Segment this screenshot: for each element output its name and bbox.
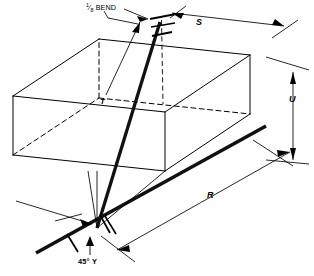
run-pipe xyxy=(36,126,266,253)
dimension-label-u: U xyxy=(289,95,296,104)
angle-leader-arrow xyxy=(16,201,92,227)
bend-vertical-projection xyxy=(162,20,164,104)
offset-pipe xyxy=(97,22,160,228)
y-branch-arrow xyxy=(86,236,94,255)
bend-fraction: 1⁄8 BEND xyxy=(86,3,116,12)
y-branch-label: 45° Y xyxy=(78,258,97,265)
bend-fitting-marks xyxy=(150,14,176,36)
dimension-line-s xyxy=(170,6,298,38)
diagram-canvas: 1⁄8 BEND S U R T 45° Y xyxy=(0,0,314,276)
box-bottom-front-edges xyxy=(13,114,250,171)
dimension-line-u xyxy=(266,57,309,164)
travel-leader xyxy=(106,22,140,95)
bend-label: 1⁄8 BEND xyxy=(86,3,116,14)
box-top-face xyxy=(13,39,250,112)
pipe-assembly xyxy=(36,22,266,253)
reference-box xyxy=(13,39,250,171)
dimension-label-r: R xyxy=(207,191,214,200)
isometric-figure xyxy=(0,0,314,276)
dimension-label-t: T xyxy=(100,98,105,106)
dimension-label-s: S xyxy=(196,18,202,27)
